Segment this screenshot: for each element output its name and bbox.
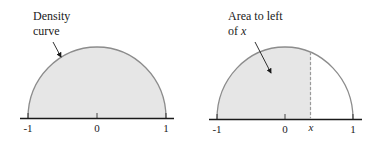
tick-label-neg1: -1 (23, 122, 32, 134)
annotation-variable-x: x (241, 24, 246, 38)
tick-label-x: x (309, 121, 314, 133)
annotation-line-1: Area to left (228, 10, 283, 23)
tick-label-0: 0 (94, 122, 100, 134)
annotation-line-2: curve (33, 25, 70, 38)
shaded-area-left-of-x (217, 47, 353, 119)
annotation-density-curve: Density curve (33, 10, 70, 38)
annotation-line-1: Density (33, 10, 70, 23)
annotation-line-2: of x (228, 25, 283, 38)
tick-label-0: 0 (282, 123, 288, 135)
annotation-area-left-of-x: Area to left of x (228, 10, 283, 38)
annotation-arrow (53, 42, 61, 57)
annotation-line-2-prefix: of (228, 24, 241, 38)
density-curve (28, 47, 166, 118)
tick-label-1: 1 (350, 123, 356, 135)
area-left-of-x-panel: Area to left of x -1 0 x 1 (188, 0, 375, 144)
density-curve-panel: Density curve -1 0 1 (0, 0, 190, 144)
tick-label-1: 1 (163, 122, 169, 134)
tick-label-neg1: -1 (212, 123, 221, 135)
